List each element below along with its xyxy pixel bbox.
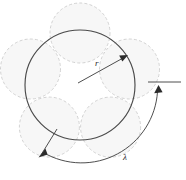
figure-container: r λ: [0, 0, 186, 180]
radius-label: r: [95, 58, 99, 68]
geometry-diagram: r λ: [0, 0, 186, 180]
arc-arrow-head-end: [154, 85, 162, 93]
arc-lambda-label: λ: [122, 152, 127, 162]
petal-circles-fill-group: [1, 3, 160, 157]
